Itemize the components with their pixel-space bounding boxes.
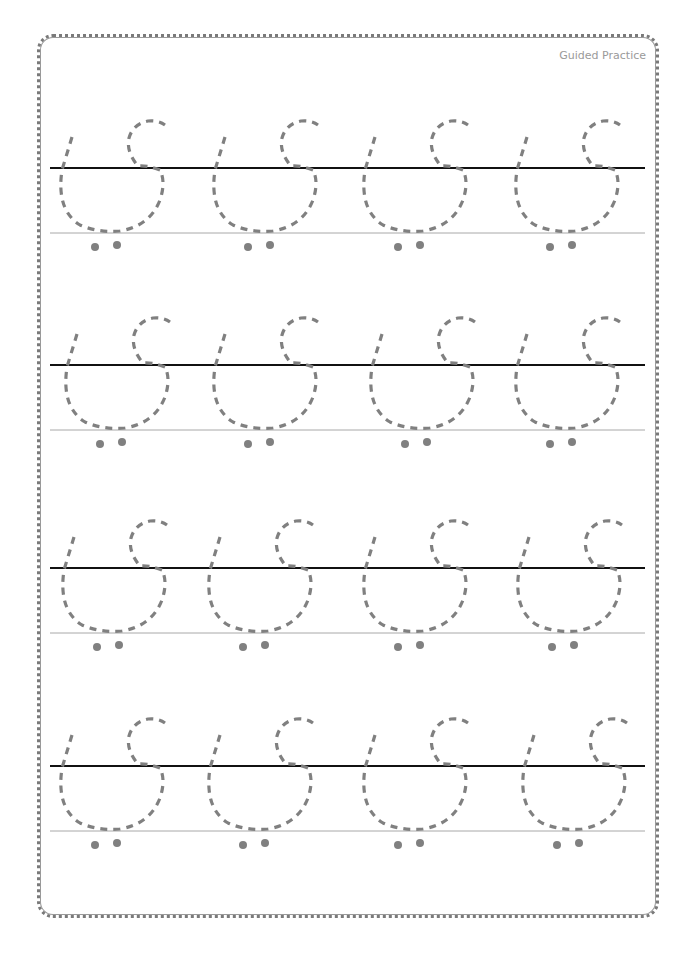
tracing-glyph	[516, 318, 620, 448]
tracing-glyph	[61, 121, 165, 251]
tracing-glyph	[209, 521, 313, 651]
tracing-glyph	[364, 521, 468, 651]
tracing-glyph	[516, 121, 620, 251]
tracing-glyph	[214, 318, 318, 448]
tracing-glyph	[518, 521, 622, 651]
tracing-glyph	[209, 719, 313, 849]
practice-row-2	[50, 318, 645, 448]
practice-row-3	[50, 521, 645, 651]
tracing-glyph	[214, 121, 318, 251]
tracing-glyph	[364, 121, 468, 251]
tracing-glyph	[371, 318, 475, 448]
tracing-glyph	[364, 719, 468, 849]
tracing-glyph	[63, 521, 167, 651]
tracing-glyph	[66, 318, 170, 448]
tracing-glyph	[523, 719, 627, 849]
tracing-glyph	[61, 719, 165, 849]
practice-row-4	[50, 719, 645, 849]
practice-row-1	[50, 121, 645, 251]
tracing-worksheet	[0, 0, 682, 963]
